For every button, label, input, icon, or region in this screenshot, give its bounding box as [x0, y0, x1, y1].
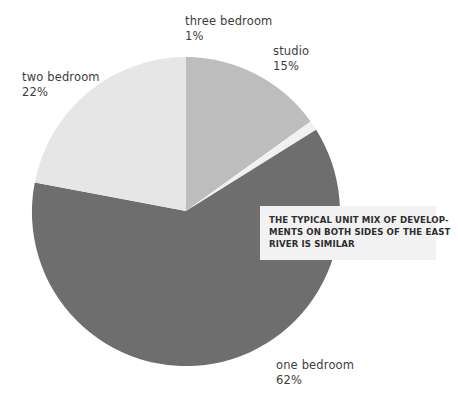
pie-label-one-bedroom-value: 62% — [276, 373, 354, 388]
pie-label-studio-name: studio — [273, 44, 309, 58]
pie-label-three-bedroom: three bedroom 1% — [185, 14, 272, 44]
pie-label-one-bedroom-name: one bedroom — [276, 358, 354, 372]
pie-chart-figure: three bedroom 1% studio 15% two bedroom … — [0, 0, 458, 412]
pie-label-studio: studio 15% — [273, 44, 309, 74]
annotation-line-1: THE TYPICAL UNIT MIX OF DEVELOP- — [269, 214, 427, 226]
annotation-line-3: RIVER IS SIMILAR — [269, 238, 427, 250]
pie-label-one-bedroom: one bedroom 62% — [276, 358, 354, 388]
chart-annotation-callout: THE TYPICAL UNIT MIX OF DEVELOP- MENTS O… — [260, 206, 436, 260]
pie-label-two-bedroom-value: 22% — [22, 85, 100, 100]
pie-label-studio-value: 15% — [273, 59, 309, 74]
pie-label-two-bedroom: two bedroom 22% — [22, 70, 100, 100]
pie-label-three-bedroom-name: three bedroom — [185, 14, 272, 28]
pie-label-two-bedroom-name: two bedroom — [22, 70, 100, 84]
annotation-line-2: MENTS ON BOTH SIDES OF THE EAST — [269, 226, 427, 238]
pie-label-three-bedroom-value: 1% — [185, 29, 272, 44]
